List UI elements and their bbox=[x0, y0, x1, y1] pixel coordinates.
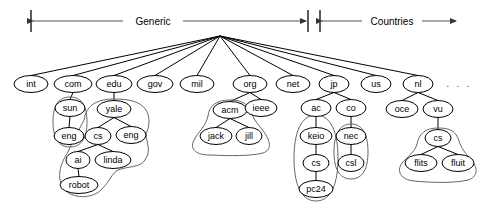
node-ieee[interactable]: ieee bbox=[245, 100, 277, 117]
node-gov[interactable]: gov bbox=[137, 76, 173, 93]
node-int[interactable]: int bbox=[14, 76, 48, 93]
node-yale[interactable]: yale bbox=[97, 101, 131, 118]
node-ai-label: ai bbox=[74, 155, 81, 165]
node-ac-label: ac bbox=[311, 103, 321, 113]
node-jill[interactable]: jill bbox=[236, 128, 262, 145]
node-flits-label: flits bbox=[414, 158, 428, 168]
node-org-label: org bbox=[243, 79, 256, 89]
node-pc24-label: pc24 bbox=[306, 184, 326, 194]
node-oce[interactable]: oce bbox=[386, 101, 418, 118]
node-eng2[interactable]: eng bbox=[116, 127, 146, 144]
edge-root-us bbox=[220, 36, 376, 76]
node-oce-label: oce bbox=[395, 104, 410, 114]
edge-cs1-ai bbox=[78, 145, 98, 152]
node-nl-label: nl bbox=[414, 79, 421, 89]
node-fluit[interactable]: fluit bbox=[442, 155, 474, 172]
node-ieee-label: ieee bbox=[252, 103, 269, 113]
edge-nl-oce bbox=[402, 93, 418, 101]
node-csl[interactable]: csl bbox=[338, 155, 364, 172]
node-cs2[interactable]: cs bbox=[303, 155, 329, 172]
node-us[interactable]: us bbox=[361, 76, 391, 93]
node-jack[interactable]: jack bbox=[200, 128, 232, 145]
node-eng1[interactable]: eng bbox=[54, 128, 84, 145]
countries-span-label: Countries bbox=[371, 16, 414, 27]
edge-cs3-flits bbox=[421, 147, 438, 155]
edge-sun-eng1 bbox=[69, 117, 70, 128]
node-cs1-label: cs bbox=[94, 131, 104, 141]
node-csl-label: csl bbox=[346, 158, 357, 168]
node-vu[interactable]: vu bbox=[423, 101, 453, 118]
node-jill-label: jill bbox=[244, 131, 253, 141]
misc-annotations: . . . bbox=[446, 77, 471, 89]
node-mil[interactable]: mil bbox=[180, 76, 214, 93]
diagram-svg: GenericCountries intcomedugovmilorgnetjp… bbox=[0, 0, 481, 215]
edge-cs3-fluit bbox=[438, 147, 458, 155]
node-jp-label: jp bbox=[329, 79, 337, 89]
node-robot[interactable]: robot bbox=[60, 177, 98, 194]
edge-root-mil bbox=[197, 36, 220, 76]
node-ai[interactable]: ai bbox=[66, 152, 90, 169]
edge-root-edu bbox=[114, 36, 220, 76]
node-jack-label: jack bbox=[207, 131, 225, 141]
edge-root-int bbox=[31, 36, 220, 76]
edge-root-org bbox=[220, 36, 250, 76]
node-acm[interactable]: acm bbox=[213, 102, 247, 119]
span-annotations: GenericCountries bbox=[31, 10, 456, 32]
node-linda-label: linda bbox=[103, 155, 122, 165]
edge-cs1-linda bbox=[98, 145, 113, 152]
countries-span: Countries bbox=[320, 10, 456, 32]
generic-span: Generic bbox=[31, 10, 308, 32]
node-linda[interactable]: linda bbox=[95, 152, 131, 169]
node-com-label: com bbox=[64, 79, 81, 89]
node-flits[interactable]: flits bbox=[405, 155, 437, 172]
node-com[interactable]: com bbox=[54, 76, 92, 93]
node-robot-label: robot bbox=[69, 180, 90, 190]
edge-com-sun bbox=[70, 93, 73, 100]
node-edu[interactable]: edu bbox=[96, 76, 132, 93]
node-ac[interactable]: ac bbox=[301, 100, 331, 117]
dns-namespace-diagram: GenericCountries intcomedugovmilorgnetjp… bbox=[0, 0, 481, 215]
edge-acm-jack bbox=[216, 119, 230, 128]
edge-root-net bbox=[220, 36, 293, 76]
node-keio[interactable]: keio bbox=[300, 128, 332, 145]
edge-jp-co bbox=[334, 93, 351, 100]
node-net[interactable]: net bbox=[276, 76, 310, 93]
node-cs2-label: cs bbox=[312, 158, 322, 168]
edge-jp-ac bbox=[316, 93, 334, 100]
node-cs1[interactable]: cs bbox=[85, 128, 111, 145]
node-fluit-label: fluit bbox=[451, 158, 466, 168]
node-net-label: net bbox=[287, 79, 300, 89]
node-nec[interactable]: nec bbox=[336, 128, 366, 145]
node-edu-label: edu bbox=[106, 79, 121, 89]
node-keio-label: keio bbox=[308, 131, 325, 141]
ellipsis-label: . . . bbox=[446, 77, 471, 89]
edge-nl-vu bbox=[418, 93, 438, 101]
node-gov-label: gov bbox=[148, 79, 163, 89]
node-co-label: co bbox=[346, 103, 356, 113]
edge-root-com bbox=[73, 36, 220, 76]
edge-org-ieee bbox=[250, 93, 261, 100]
node-sun[interactable]: sun bbox=[55, 100, 85, 117]
node-sun-label: sun bbox=[63, 103, 78, 113]
generic-span-label: Generic bbox=[135, 16, 170, 27]
node-co[interactable]: co bbox=[336, 100, 366, 117]
node-pc24[interactable]: pc24 bbox=[299, 181, 333, 198]
node-mil-label: mil bbox=[191, 79, 203, 89]
node-nec-label: nec bbox=[344, 131, 359, 141]
node-org[interactable]: org bbox=[233, 76, 267, 93]
node-eng2-label: eng bbox=[123, 130, 138, 140]
edge-ai-robot bbox=[78, 169, 79, 177]
node-vu-label: vu bbox=[433, 104, 443, 114]
node-eng1-label: eng bbox=[61, 131, 76, 141]
node-cs3[interactable]: cs bbox=[425, 130, 451, 147]
tree-nodes: intcomedugovmilorgnetjpusnlsunyaleacmiee… bbox=[14, 76, 474, 198]
edge-yale-cs1 bbox=[98, 118, 114, 128]
node-int-label: int bbox=[26, 79, 36, 89]
node-us-label: us bbox=[371, 79, 381, 89]
node-jp[interactable]: jp bbox=[319, 76, 349, 93]
edge-acm-jill bbox=[230, 119, 249, 128]
node-nl[interactable]: nl bbox=[403, 76, 433, 93]
node-yale-label: yale bbox=[106, 104, 123, 114]
node-acm-label: acm bbox=[221, 105, 238, 115]
edge-root-nl bbox=[220, 36, 418, 76]
